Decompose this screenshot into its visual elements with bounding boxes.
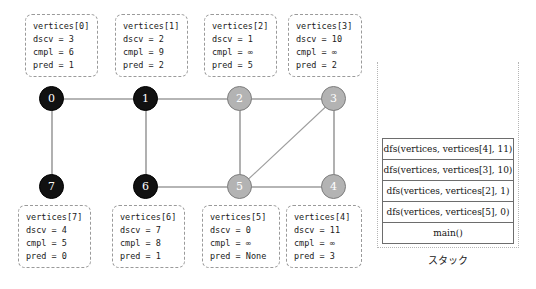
vertex-box-dscv-value: dscv = 7: [120, 224, 184, 237]
graph-node-0[interactable]: 0: [39, 86, 64, 111]
vertex-box-title: vertices[0]: [33, 20, 97, 33]
vertex-box-cmpl-value: cmpl = ∞: [294, 237, 361, 250]
vertex-box-pred-value: pred = None: [210, 250, 279, 263]
vertex-box-4: vertices[4] dscv = 11 cmpl = ∞ pred = 3: [286, 205, 362, 268]
vertex-box-title: vertices[6]: [120, 211, 184, 224]
vertex-box-dscv-value: dscv = 0: [210, 224, 279, 237]
vertex-box-cmpl-value: cmpl = ∞: [210, 237, 279, 250]
call-stack-caption: スタック: [377, 252, 519, 267]
vertex-box-pred-value: pred = 5: [212, 59, 276, 72]
graph-node-7[interactable]: 7: [39, 174, 64, 199]
graph-node-2[interactable]: 2: [227, 86, 252, 111]
call-stack-panel: dfs(vertices, vertices[4], 11) dfs(verti…: [377, 62, 519, 248]
vertex-box-dscv-value: dscv = 11: [294, 224, 361, 237]
vertex-box-1: vertices[1] dscv = 2 cmpl = 9 pred = 2: [115, 14, 188, 77]
vertex-box-6: vertices[6] dscv = 7 cmpl = 8 pred = 1: [112, 205, 185, 268]
graph-node-5[interactable]: 5: [227, 174, 252, 199]
vertex-box-cmpl-value: cmpl = 5: [26, 237, 90, 250]
vertex-box-title: vertices[1]: [123, 20, 187, 33]
stack-frame: dfs(vertices, vertices[3], 10): [382, 159, 514, 181]
graph-node-label: 1: [142, 93, 149, 104]
vertex-box-dscv-value: dscv = 10: [296, 33, 361, 46]
vertex-box-title: vertices[7]: [26, 211, 90, 224]
vertex-box-title: vertices[5]: [210, 211, 279, 224]
graph-node-label: 0: [48, 93, 55, 104]
vertex-box-3: vertices[3] dscv = 10 cmpl = ∞ pred = 2: [288, 14, 362, 77]
vertex-box-dscv-value: dscv = 4: [26, 224, 90, 237]
vertex-box-pred-value: pred = 0: [26, 250, 90, 263]
stack-frame: dfs(vertices, vertices[4], 11): [382, 138, 514, 160]
vertex-box-pred-value: pred = 2: [123, 59, 187, 72]
stack-frame-main: main(): [382, 222, 514, 244]
vertex-box-cmpl-value: cmpl = 6: [33, 46, 97, 59]
vertex-box-pred-value: pred = 1: [33, 59, 97, 72]
vertex-box-2: vertices[2] dscv = 1 cmpl = ∞ pred = 5: [204, 14, 277, 77]
vertex-box-title: vertices[3]: [296, 20, 361, 33]
vertex-box-cmpl-value: cmpl = ∞: [212, 46, 276, 59]
graph-node-label: 2: [236, 93, 243, 104]
graph-node-4[interactable]: 4: [321, 174, 346, 199]
edge-3-5: [240, 99, 334, 187]
vertex-box-0: vertices[0] dscv = 3 cmpl = 6 pred = 1: [25, 14, 98, 77]
graph-node-6[interactable]: 6: [133, 174, 158, 199]
graph-node-label: 5: [236, 181, 243, 192]
graph-node-label: 6: [142, 181, 149, 192]
vertex-box-title: vertices[2]: [212, 20, 276, 33]
stack-frame: dfs(vertices, vertices[5], 0): [382, 201, 514, 223]
vertex-box-pred-value: pred = 3: [294, 250, 361, 263]
vertex-box-cmpl-value: cmpl = ∞: [296, 46, 361, 59]
vertex-box-pred-value: pred = 1: [120, 250, 184, 263]
stack-frame: dfs(vertices, vertices[2], 1): [382, 180, 514, 202]
vertex-box-dscv-value: dscv = 3: [33, 33, 97, 46]
vertex-box-cmpl-value: cmpl = 8: [120, 237, 184, 250]
vertex-box-5: vertices[5] dscv = 0 cmpl = ∞ pred = Non…: [202, 205, 280, 268]
graph-node-label: 7: [48, 181, 55, 192]
vertex-box-dscv-value: dscv = 2: [123, 33, 187, 46]
vertex-box-pred-value: pred = 2: [296, 59, 361, 72]
graph-node-3[interactable]: 3: [321, 86, 346, 111]
vertex-box-7: vertices[7] dscv = 4 cmpl = 5 pred = 0: [18, 205, 91, 268]
vertex-box-title: vertices[4]: [294, 211, 361, 224]
graph-node-label: 4: [330, 181, 337, 192]
graph-node-label: 3: [330, 93, 337, 104]
vertex-box-dscv-value: dscv = 1: [212, 33, 276, 46]
vertex-box-cmpl-value: cmpl = 9: [123, 46, 187, 59]
graph-node-1[interactable]: 1: [133, 86, 158, 111]
